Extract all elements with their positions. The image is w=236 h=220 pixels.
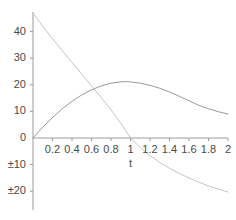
y-tick-label: ±10 xyxy=(0,159,26,170)
y-tick-label: 30 xyxy=(0,52,26,63)
chart-plot-area: 403020100±10±200.20.40.60.811.21.41.61.8… xyxy=(0,0,236,220)
series-line-rising-arc xyxy=(33,82,228,138)
y-tick-label: 20 xyxy=(0,79,26,90)
y-tick-label: 10 xyxy=(0,105,26,116)
x-axis-title: t xyxy=(121,158,141,169)
axes-group xyxy=(33,12,228,210)
y-tick-label: 40 xyxy=(0,26,26,37)
x-tick-label: 2 xyxy=(217,144,236,155)
y-tick-label: 0 xyxy=(0,132,26,143)
chart-canvas xyxy=(0,0,236,220)
y-tick-label: ±20 xyxy=(0,185,26,196)
